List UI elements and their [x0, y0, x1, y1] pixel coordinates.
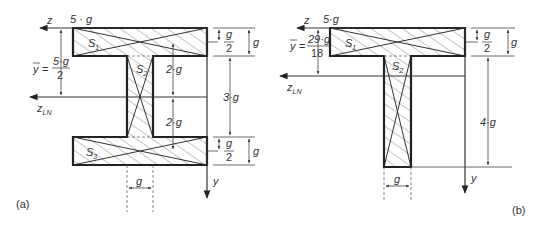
z-ln-label: zLN — [36, 102, 52, 116]
dim-top-half-b: g 2 — [482, 28, 492, 54]
top-width-label: 5 · g — [70, 13, 93, 25]
z-ln-label-b: zLN — [286, 81, 302, 95]
svg-text:y: y — [289, 40, 297, 52]
svg-text:g: g — [226, 28, 233, 40]
caption-a: (a) — [16, 198, 29, 210]
svg-text:2: 2 — [226, 42, 232, 54]
dim-top-half-a: g 2 — [224, 28, 234, 54]
y-axis-label: y — [212, 175, 220, 187]
dim-top-flange-a: g — [253, 36, 260, 48]
svg-text:18: 18 — [311, 47, 323, 59]
centroid-label-a: y = 5·g 2 — [32, 55, 70, 81]
z-axis-label-b: z — [303, 14, 310, 26]
svg-text:g: g — [484, 28, 491, 40]
dim-top-flange-b: g — [511, 36, 518, 48]
svg-text:2: 2 — [484, 42, 490, 54]
y-axis-label-b: y — [470, 172, 478, 184]
svg-text:2: 2 — [57, 69, 63, 81]
svg-text:29·g: 29·g — [307, 33, 331, 45]
dim-bottom-flange-a: g — [253, 145, 260, 157]
panel-b: z 5·g S1 S2 y = 29·g 18 zLN y g 2 g 4·g … — [280, 13, 525, 216]
caption-b: (b) — [512, 204, 525, 216]
svg-text:=: = — [42, 63, 48, 75]
dim-web-height-a: 3·g — [223, 91, 240, 103]
dim-web-height-b: 4·g — [480, 116, 497, 128]
dim-web-width-a: g — [136, 175, 143, 187]
centroid-label-b: y = 29·g 18 — [289, 33, 331, 59]
svg-text:2: 2 — [226, 151, 232, 163]
top-width-label-b: 5·g — [323, 13, 340, 25]
dim-web-lower: 2·g — [165, 116, 183, 128]
svg-text:g: g — [226, 137, 233, 149]
cross-section-figure: z 5 · g S1 S2 S3 y = 5·g 2 zLN y g 2 g 2… — [0, 0, 541, 239]
dim-web-upper: 2·g — [165, 63, 183, 75]
dim-web-width-b: g — [394, 173, 401, 185]
panel-a: z 5 · g S1 S2 S3 y = 5·g 2 zLN y g 2 g 2… — [16, 13, 260, 212]
svg-text:=: = — [299, 40, 305, 52]
svg-text:5·g: 5·g — [53, 55, 70, 67]
dim-bottom-half-a: g 2 — [224, 137, 234, 163]
z-axis-label: z — [46, 14, 53, 26]
svg-text:y: y — [32, 63, 40, 75]
